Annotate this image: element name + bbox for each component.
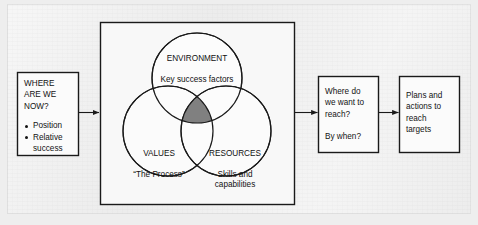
values-label: VALUES “The Process” bbox=[122, 139, 196, 190]
where-are-we-now-content: WHERE ARE WE NOW? Position Relative succ… bbox=[24, 78, 76, 154]
resources-label: RESOURCES Skills and capabilities bbox=[198, 139, 272, 200]
where-are-we-now-heading: WHERE ARE WE NOW? bbox=[24, 78, 76, 112]
environment-subtitle: Key success factors bbox=[152, 75, 242, 85]
where-do-we-want-to-reach-line2: By when? bbox=[325, 131, 375, 142]
values-subtitle: “The Process” bbox=[122, 170, 196, 180]
environment-label: ENVIRONMENT Key success factors bbox=[152, 44, 242, 95]
where-are-we-now-bullets: Position Relative bbox=[24, 120, 76, 143]
where-do-we-want-to-reach-content: Where do we want to reach? By when? bbox=[325, 86, 375, 143]
values-title: VALUES bbox=[122, 149, 196, 159]
resources-subtitle: Skills and capabilities bbox=[198, 170, 272, 190]
plans-and-actions-text: Plans and actions to reach targets bbox=[406, 90, 456, 136]
plans-and-actions-content: Plans and actions to reach targets bbox=[406, 90, 456, 136]
diagram-canvas: WHERE ARE WE NOW? Position Relative succ… bbox=[0, 0, 478, 225]
bullet-relative: Relative bbox=[24, 132, 76, 143]
bullet-relative-continuation: success bbox=[24, 143, 76, 154]
bullet-position: Position bbox=[24, 120, 76, 131]
environment-title: ENVIRONMENT bbox=[152, 54, 242, 64]
resources-title: RESOURCES bbox=[198, 149, 272, 159]
where-do-we-want-to-reach-line1: Where do we want to reach? bbox=[325, 86, 375, 120]
